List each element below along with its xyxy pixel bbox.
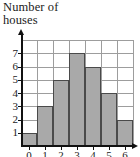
bar xyxy=(21,133,37,146)
y-axis-tick-label: 7 xyxy=(4,48,18,59)
y-axis-tick-mark xyxy=(18,133,23,134)
grid-line-vertical xyxy=(133,40,134,146)
y-axis-tick-mark xyxy=(18,67,23,68)
bar xyxy=(53,80,69,146)
x-axis-tick-label: 2 xyxy=(55,150,67,157)
y-axis-tick-mark xyxy=(18,120,23,121)
y-axis-tick-label: 5 xyxy=(4,74,18,85)
bar xyxy=(101,93,117,146)
bars-layer xyxy=(21,40,133,146)
x-axis-tick-label: 4 xyxy=(87,150,99,157)
y-axis-tick-labels: 1234567 xyxy=(0,0,18,157)
x-axis-tick-label: 0 xyxy=(23,150,35,157)
x-axis-tick-label: 5 xyxy=(103,150,115,157)
y-axis-tick-mark xyxy=(18,53,23,54)
y-axis-tick-mark xyxy=(18,93,23,94)
y-axis-tick-label: 1 xyxy=(4,127,18,138)
x-axis-tick-label: 1 xyxy=(39,150,51,157)
bar xyxy=(85,67,101,147)
bar xyxy=(37,106,53,146)
y-axis-tick-mark xyxy=(18,80,23,81)
y-axis-tick-mark xyxy=(18,106,23,107)
chart-title: Number of houses xyxy=(3,1,113,27)
bar xyxy=(69,53,85,146)
y-axis-tick-label: 2 xyxy=(4,114,18,125)
y-axis-tick-label: 4 xyxy=(4,88,18,99)
x-axis-tick-label: 3 xyxy=(71,150,83,157)
bar xyxy=(117,120,133,147)
y-axis-arrow-icon xyxy=(18,29,24,35)
plot-area xyxy=(21,40,133,146)
bar-chart-figure: Number of houses 1234567 0123456 xyxy=(0,0,140,157)
y-axis-line xyxy=(21,34,23,147)
x-axis-arrow-icon xyxy=(132,143,138,149)
y-axis-tick-label: 3 xyxy=(4,101,18,112)
y-axis-tick-label: 6 xyxy=(4,61,18,72)
x-axis-tick-label: 6 xyxy=(119,150,131,157)
